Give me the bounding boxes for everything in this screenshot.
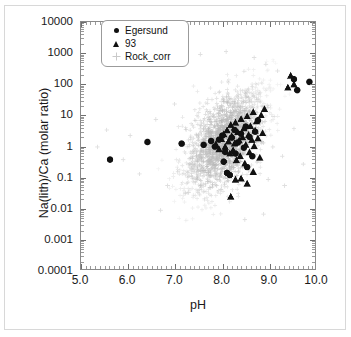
x-axis-tick: [223, 264, 224, 269]
y-axis-minor-tick: [312, 101, 315, 102]
y-axis-minor-tick: [81, 128, 84, 129]
y-axis-tick-label: 100: [3, 77, 73, 89]
y-axis-minor-tick: [312, 252, 315, 253]
y-axis-minor-tick: [81, 199, 84, 200]
y-axis-minor-tick: [312, 137, 315, 138]
y-axis-minor-tick: [81, 241, 84, 242]
x-axis-minor-tick: [312, 22, 313, 25]
y-axis-minor-tick: [312, 27, 315, 28]
y-axis-tick-label: 0.01: [3, 202, 73, 214]
x-axis-tick-label: 5.0: [72, 273, 89, 287]
y-axis-minor-tick: [312, 194, 315, 195]
y-axis-minor-tick: [312, 212, 315, 213]
x-axis-tick: [270, 264, 271, 269]
y-axis-minor-tick: [81, 214, 84, 215]
y-axis-minor-tick: [312, 216, 315, 217]
legend-item-egersund: Egersund: [102, 24, 188, 37]
legend-label-93: 93: [125, 38, 136, 49]
y-axis-minor-tick: [81, 159, 84, 160]
y-axis-minor-tick: [81, 212, 84, 213]
x-axis-title: pH: [80, 298, 316, 312]
y-axis-minor-tick: [81, 190, 84, 191]
x-axis-tick-label: 8.0: [213, 273, 230, 287]
y-axis-minor-tick: [312, 106, 315, 107]
x-axis-minor-tick: [246, 266, 247, 269]
y-axis-minor-tick: [312, 86, 315, 87]
x-axis-minor-tick: [218, 266, 219, 269]
y-axis-minor-tick: [312, 249, 315, 250]
x-axis-minor-tick: [166, 266, 167, 269]
y-axis-minor-tick: [81, 75, 84, 76]
y-axis-minor-tick: [312, 60, 315, 61]
x-axis-minor-tick: [204, 22, 205, 25]
y-axis-minor-tick: [81, 69, 84, 70]
y-axis-minor-tick: [81, 94, 84, 95]
y-axis-minor-tick: [312, 125, 315, 126]
circle-marker-icon: [109, 28, 123, 33]
x-axis-minor-tick: [303, 22, 304, 25]
y-axis-minor-tick: [312, 128, 315, 129]
x-axis-minor-tick: [308, 266, 309, 269]
x-axis-minor-tick: [279, 266, 280, 269]
y-axis-tick-label: 1000: [3, 46, 73, 58]
y-axis-minor-tick: [312, 94, 315, 95]
y-axis-minor-tick: [312, 31, 315, 32]
x-axis-minor-tick: [90, 22, 91, 25]
y-axis-minor-tick: [81, 151, 84, 152]
x-axis-minor-tick: [190, 266, 191, 269]
y-axis-tick-label: 10000: [3, 15, 73, 27]
y-axis-minor-tick: [81, 231, 84, 232]
x-axis-minor-tick: [123, 266, 124, 269]
y-axis-minor-tick: [81, 150, 84, 151]
x-axis-minor-tick: [133, 266, 134, 269]
x-axis-tick: [128, 264, 129, 269]
figure-root: Na(lith)/Ca (molar ratio) pH 10000100010…: [0, 0, 351, 337]
x-axis-minor-tick: [246, 22, 247, 25]
x-axis-minor-tick: [232, 22, 233, 25]
x-axis-minor-tick: [194, 22, 195, 25]
y-axis-minor-tick: [81, 182, 84, 183]
x-axis-minor-tick: [180, 266, 181, 269]
y-axis-minor-tick: [81, 91, 84, 92]
x-axis-tick-label: 7.0: [166, 273, 183, 287]
x-axis-minor-tick: [95, 266, 96, 269]
x-axis-minor-tick: [298, 266, 299, 269]
y-axis-minor-tick: [81, 60, 84, 61]
y-axis-minor-tick: [81, 125, 84, 126]
legend-item-93: 93: [102, 37, 188, 50]
y-axis-minor-tick: [81, 247, 84, 248]
x-axis-minor-tick: [279, 22, 280, 25]
y-axis-minor-tick: [81, 243, 84, 244]
y-axis-minor-tick: [81, 216, 84, 217]
y-axis-minor-tick: [312, 218, 315, 219]
y-axis-minor-tick: [312, 38, 315, 39]
y-axis-minor-tick: [81, 194, 84, 195]
y-axis-minor-tick: [312, 221, 315, 222]
x-axis-minor-tick: [251, 266, 252, 269]
y-axis-minor-tick: [81, 38, 84, 39]
y-axis-minor-tick: [81, 117, 84, 118]
x-axis-minor-tick: [142, 266, 143, 269]
y-axis-minor-tick: [312, 241, 315, 242]
x-axis-minor-tick: [86, 22, 87, 25]
x-axis-minor-tick: [95, 22, 96, 25]
x-axis-minor-tick: [289, 266, 290, 269]
y-axis-minor-tick: [81, 153, 84, 154]
x-axis-minor-tick: [241, 266, 242, 269]
y-axis-minor-tick: [312, 185, 315, 186]
x-axis-tick-label: 6.0: [119, 273, 136, 287]
y-axis-minor-tick: [312, 168, 315, 169]
y-axis-minor-tick: [81, 118, 84, 119]
x-axis-minor-tick: [275, 22, 276, 25]
y-axis-minor-tick: [312, 225, 315, 226]
y-axis-minor-tick: [81, 218, 84, 219]
y-axis-minor-tick: [81, 56, 84, 57]
y-axis-minor-tick: [81, 89, 84, 90]
y-axis-minor-tick: [312, 256, 315, 257]
y-axis-minor-tick: [81, 44, 84, 45]
x-axis-minor-tick: [157, 266, 158, 269]
x-axis-minor-tick: [265, 266, 266, 269]
x-axis-minor-tick: [109, 266, 110, 269]
y-axis-minor-tick: [312, 245, 315, 246]
x-axis-minor-tick: [119, 266, 120, 269]
